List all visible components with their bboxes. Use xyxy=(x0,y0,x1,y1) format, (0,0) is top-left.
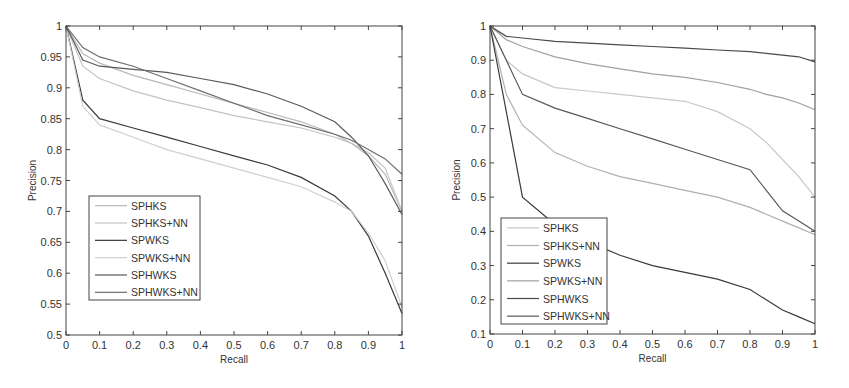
series-line-sphwks-plus-nn xyxy=(490,26,815,231)
legend-entry: SPHWKS+NN xyxy=(543,310,610,322)
left-precision-recall-chart: 00.10.20.30.40.50.60.70.80.910.50.550.60… xyxy=(27,20,405,365)
x-tick-label: 0.7 xyxy=(710,338,725,350)
y-tick-label: 0.6 xyxy=(471,157,486,169)
legend-entry: SPWKS xyxy=(543,257,581,269)
x-tick-label: 0.5 xyxy=(226,339,241,351)
legend-entry: SPHKS xyxy=(543,222,579,234)
series-line-sphks-plus-nn xyxy=(66,26,402,211)
x-tick-label: 0 xyxy=(63,339,69,351)
x-tick-label: 0.8 xyxy=(327,339,342,351)
y-axis-label: Precision xyxy=(451,159,462,200)
legend-entry: SPHWKS+NN xyxy=(131,286,198,298)
series-line-sphwks-plus-nn xyxy=(66,26,402,174)
x-tick-label: 0.2 xyxy=(547,338,562,350)
y-tick-label: 0.75 xyxy=(41,175,62,187)
x-tick-label: 0.9 xyxy=(361,339,376,351)
legend: SPHKSSPHKS+NNSPWKSSPWKS+NNSPHWKSSPHWKS+N… xyxy=(501,218,610,324)
y-tick-label: 0.5 xyxy=(47,329,62,341)
x-tick-label: 0.1 xyxy=(515,338,530,350)
y-tick-label: 0.65 xyxy=(41,236,62,248)
x-tick-label: 1 xyxy=(399,339,405,351)
x-tick-label: 1 xyxy=(812,338,818,350)
y-tick-label: 0.9 xyxy=(47,82,62,94)
y-tick-label: 0.4 xyxy=(471,225,486,237)
x-tick-label: 0.7 xyxy=(294,339,309,351)
y-tick-label: 0.5 xyxy=(471,191,486,203)
y-tick-label: 1 xyxy=(56,20,62,32)
x-tick-label: 0.8 xyxy=(742,338,757,350)
right-precision-recall-chart: 00.10.20.30.40.50.60.70.80.910.10.20.30.… xyxy=(451,20,818,364)
series-line-sphwks xyxy=(490,26,815,62)
legend-entry: SPWKS+NN xyxy=(131,252,190,264)
series-line-spwks-plus-nn xyxy=(490,26,815,110)
x-axis-label: Recall xyxy=(220,354,248,365)
x-tick-label: 0.3 xyxy=(159,339,174,351)
series-line-sphwks xyxy=(66,26,402,215)
x-tick-label: 0.9 xyxy=(775,338,790,350)
legend-entry: SPWKS xyxy=(131,234,169,246)
legend-box xyxy=(501,218,607,324)
series-line-sphks xyxy=(66,26,402,211)
y-tick-label: 0.8 xyxy=(471,88,486,100)
legend-entry: SPHKS+NN xyxy=(131,217,188,229)
figure-canvas: 00.10.20.30.40.50.60.70.80.910.50.550.60… xyxy=(0,0,849,388)
x-tick-label: 0.6 xyxy=(260,339,275,351)
y-tick-label: 0.95 xyxy=(41,51,62,63)
x-tick-label: 0.4 xyxy=(612,338,627,350)
y-tick-label: 0.7 xyxy=(47,205,62,217)
y-tick-label: 0.9 xyxy=(471,54,486,66)
y-tick-label: 0.8 xyxy=(47,144,62,156)
x-tick-label: 0.5 xyxy=(645,338,660,350)
legend: SPHKSSPHKS+NNSPWKSSPWKS+NNSPHWKSSPHWKS+N… xyxy=(89,196,200,300)
y-tick-label: 0.55 xyxy=(41,298,62,310)
legend-entry: SPHKS+NN xyxy=(543,240,600,252)
x-axis-label: Recall xyxy=(639,353,667,364)
legend-entry: SPWKS+NN xyxy=(543,275,602,287)
y-tick-label: 0.6 xyxy=(47,267,62,279)
x-tick-label: 0.2 xyxy=(126,339,141,351)
x-tick-label: 0.6 xyxy=(677,338,692,350)
y-tick-label: 0.1 xyxy=(471,328,486,340)
y-tick-label: 1 xyxy=(480,20,486,32)
x-tick-label: 0.4 xyxy=(193,339,208,351)
legend-entry: SPHKS xyxy=(131,200,167,212)
y-tick-label: 0.85 xyxy=(41,113,62,125)
x-tick-label: 0.3 xyxy=(580,338,595,350)
x-tick-label: 0 xyxy=(487,338,493,350)
x-tick-label: 0.1 xyxy=(92,339,107,351)
y-tick-label: 0.7 xyxy=(471,123,486,135)
series-line-sphks-plus-nn xyxy=(490,26,815,235)
legend-entry: SPHWKS xyxy=(131,269,177,281)
legend-entry: SPHWKS xyxy=(543,293,589,305)
y-axis-label: Precision xyxy=(27,160,38,201)
y-tick-label: 0.2 xyxy=(471,294,486,306)
y-tick-label: 0.3 xyxy=(471,260,486,272)
